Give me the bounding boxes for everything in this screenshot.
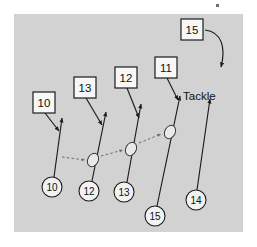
position-label-text: 13 xyxy=(79,82,92,94)
player-number-text: 12 xyxy=(83,186,95,197)
player-number-text: 14 xyxy=(190,195,202,206)
tackle-label: Tackle xyxy=(183,90,216,102)
player-marker[interactable]: 10 xyxy=(42,177,62,197)
player-marker[interactable]: 15 xyxy=(145,206,165,226)
diagram-canvas: 1012131514 1013121115 Tackle xyxy=(0,0,257,247)
player-number-text: 13 xyxy=(118,187,130,198)
position-label[interactable]: 13 xyxy=(74,77,96,98)
position-label[interactable]: 11 xyxy=(155,57,177,78)
position-label-text: 11 xyxy=(160,62,172,74)
rugby-drill-diagram: 1012131514 1013121115 Tackle xyxy=(0,0,257,247)
position-label[interactable]: 12 xyxy=(115,67,137,88)
position-label[interactable]: 10 xyxy=(33,92,55,113)
scan-speck xyxy=(216,4,219,7)
player-marker[interactable]: 13 xyxy=(114,182,134,202)
position-label[interactable]: 15 xyxy=(181,19,203,40)
position-label-text: 15 xyxy=(186,24,199,36)
player-number-text: 10 xyxy=(46,182,58,193)
player-marker[interactable]: 14 xyxy=(186,190,206,210)
player-marker[interactable]: 12 xyxy=(79,181,99,201)
player-number-text: 15 xyxy=(149,211,161,222)
position-label-text: 12 xyxy=(120,72,133,84)
position-label-text: 10 xyxy=(38,97,51,109)
